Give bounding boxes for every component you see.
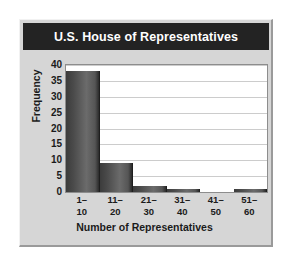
chart-title: U.S. House of Representatives <box>54 30 238 44</box>
x-axis-tick-label: 31–40 <box>166 194 200 217</box>
y-axis-tick-label: 25 <box>32 106 62 117</box>
x-axis-tick-label-line: 51– <box>233 194 267 206</box>
y-axis-tick-label: 20 <box>32 122 62 133</box>
y-axis-tick-label: 5 <box>32 170 62 181</box>
x-axis-tick-label: 1–10 <box>65 194 99 217</box>
plot-area <box>65 64 268 193</box>
y-axis-tick-label: 10 <box>32 154 62 165</box>
x-axis-tick-label-line: 10 <box>65 206 99 218</box>
x-axis-tick-label-line: 20 <box>99 206 133 218</box>
x-axis-tick-label: 21–30 <box>132 194 166 217</box>
bar <box>66 71 100 192</box>
chart-title-banner: U.S. House of Representatives <box>23 23 269 50</box>
x-axis-tick-label-line: 21– <box>132 194 166 206</box>
x-axis-tick-label: 41–50 <box>199 194 233 217</box>
bar-series <box>66 65 267 192</box>
x-axis-tick-label-line: 60 <box>233 206 267 218</box>
y-axis-tick-labels: 0510152025303540 <box>32 58 62 198</box>
y-axis-tick-label: 40 <box>32 59 62 70</box>
x-axis-tick-label: 51–60 <box>233 194 267 217</box>
x-axis-tick-label-line: 50 <box>199 206 233 218</box>
x-axis-title: Number of Representatives <box>20 221 269 233</box>
x-axis-tick-labels: 1–1011–2021–3031–4041–5051–60 <box>65 194 266 224</box>
y-axis-tick-label: 30 <box>32 90 62 101</box>
x-axis-tick-label-line: 41– <box>199 194 233 206</box>
chart-figure: U.S. House of Representatives Frequency … <box>19 19 273 247</box>
bar <box>133 186 167 192</box>
x-axis-tick-label-line: 40 <box>166 206 200 218</box>
bar <box>100 163 134 192</box>
x-axis-tick-label-line: 30 <box>132 206 166 218</box>
y-axis-tick-label: 0 <box>32 186 62 197</box>
y-axis-tick-label: 15 <box>32 138 62 149</box>
x-axis-tick-label: 11–20 <box>99 194 133 217</box>
x-axis-tick-label-line: 11– <box>99 194 133 206</box>
x-axis-tick-label-line: 31– <box>166 194 200 206</box>
bar <box>167 189 201 192</box>
x-axis-tick-label-line: 1– <box>65 194 99 206</box>
y-axis-tick-label: 35 <box>32 74 62 85</box>
bar <box>234 189 268 192</box>
